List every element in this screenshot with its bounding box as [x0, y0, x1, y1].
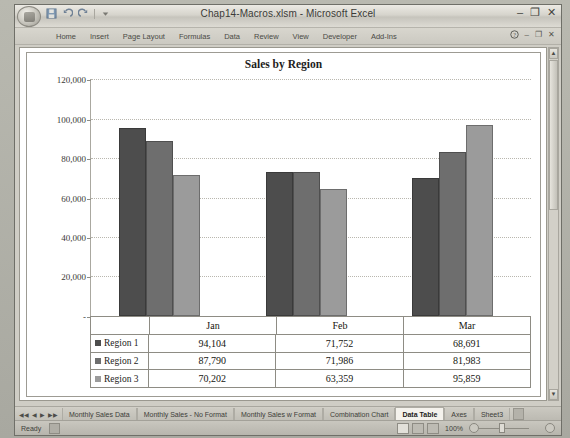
bar-region1-mar[interactable]: [412, 178, 439, 316]
sheet-tab-bar: ◀◀ ◀ ▶ ▶▶ Monthly Sales Data Monthly Sal…: [15, 406, 561, 421]
ribbon-tab-view[interactable]: View: [286, 30, 316, 43]
record-macro-icon[interactable]: [49, 423, 60, 434]
legend-label-region2: Region 2: [104, 356, 139, 366]
data-cell-region3-feb: 63,359: [276, 370, 403, 387]
ytick-label-0: -: [83, 312, 86, 322]
window-controls: – ❐ ✕: [517, 7, 556, 18]
bar-group-mar: [384, 79, 531, 316]
bar-region2-mar[interactable]: [439, 152, 466, 316]
help-icon[interactable]: ?: [510, 30, 519, 39]
ribbon-tab-review[interactable]: Review: [247, 30, 286, 43]
data-table-row-region3: Region 3 70,202 63,359 95,859: [91, 370, 530, 387]
data-cell-region2-jan: 87,790: [149, 353, 276, 370]
next-sheet-icon[interactable]: ▶: [40, 411, 45, 418]
legend-label-region3: Region 3: [104, 374, 139, 384]
bar-group-feb: [238, 79, 385, 316]
restore-button[interactable]: ❐: [530, 7, 540, 18]
previous-sheet-icon[interactable]: ◀: [32, 411, 37, 418]
bar-region3-feb[interactable]: [320, 189, 347, 316]
data-table-row-region2: Region 2 87,790 71,986 81,983: [91, 353, 530, 371]
data-cell-region2-mar: 81,983: [404, 353, 530, 370]
svg-text:?: ?: [513, 32, 516, 38]
bar-region3-jan[interactable]: [173, 175, 200, 316]
bar-region2-jan[interactable]: [146, 141, 173, 316]
page-layout-view-icon[interactable]: [412, 423, 424, 434]
data-table-header-jan: Jan: [150, 317, 277, 334]
sheet-tab-data-table[interactable]: Data Table: [395, 407, 444, 421]
legend-swatch-region3-icon: [95, 376, 101, 382]
chart-data-table[interactable]: Jan Feb Mar Region 1 94,104 71,752 68,69: [90, 316, 531, 388]
data-cell-region2-feb: 71,986: [276, 353, 403, 370]
first-sheet-icon[interactable]: ◀◀: [19, 411, 29, 418]
minimize-ribbon-icon[interactable]: –: [525, 30, 529, 39]
data-table-row-region1: Region 1 94,104 71,752 68,691: [91, 335, 530, 353]
chart-bar-groups: [91, 79, 531, 316]
bar-group-jan: [91, 79, 238, 316]
sheet-nav-buttons: ◀◀ ◀ ▶ ▶▶: [15, 411, 62, 418]
bar-region1-feb[interactable]: [266, 172, 293, 316]
data-table-rowheader-region1: Region 1: [91, 335, 149, 352]
window-title: Chap14-Macros.xlsm - Microsoft Excel: [15, 8, 561, 19]
page-break-view-icon[interactable]: [427, 423, 439, 434]
zoom-knob[interactable]: [499, 423, 505, 433]
desktop-background: Chap14-Macros.xlsm - Microsoft Excel – ❐…: [0, 0, 570, 438]
bar-region1-jan[interactable]: [119, 128, 146, 316]
ribbon-tab-developer[interactable]: Developer: [316, 30, 364, 43]
close-workbook-icon[interactable]: ✕: [548, 30, 555, 39]
worksheet-canvas[interactable]: Sales by Region 120,000 100,000: [19, 47, 547, 401]
zoom-slider[interactable]: [469, 424, 539, 433]
view-buttons: [397, 423, 439, 434]
excel-window: Chap14-Macros.xlsm - Microsoft Excel – ❐…: [14, 4, 562, 436]
ytick-label-100000: 100,000: [57, 115, 86, 125]
ytick-label-120000: 120,000: [57, 75, 86, 85]
close-button[interactable]: ✕: [547, 7, 556, 18]
zoom-out-icon[interactable]: [469, 423, 479, 433]
legend-swatch-region2-icon: [95, 358, 101, 364]
data-table-rowheader-region3: Region 3: [91, 370, 149, 387]
normal-view-icon[interactable]: [397, 423, 409, 434]
sheet-tab-axes[interactable]: Axes: [444, 408, 474, 421]
sheet-tab-sheet3[interactable]: Sheet3: [474, 408, 510, 421]
data-cell-region1-feb: 71,752: [276, 335, 403, 352]
bar-region2-feb[interactable]: [293, 172, 320, 316]
ribbon-tab-formulas[interactable]: Formulas: [172, 30, 217, 43]
status-bar: Ready 100%: [15, 420, 561, 435]
sheet-tab-combination-chart[interactable]: Combination Chart: [323, 408, 395, 421]
data-table-header-feb: Feb: [277, 317, 404, 334]
legend-swatch-region1-icon: [95, 340, 101, 346]
ytick-label-60000: 60,000: [61, 194, 86, 204]
legend-label-region1: Region 1: [104, 338, 139, 348]
sheet-tab-monthly-sales-no-format[interactable]: Monthly Sales - No Format: [137, 408, 234, 421]
tab-split-handle[interactable]: [513, 408, 524, 420]
ribbon-tab-home[interactable]: Home: [49, 30, 83, 43]
status-text: Ready: [15, 425, 41, 432]
last-sheet-icon[interactable]: ▶▶: [48, 411, 58, 418]
zoom-in-icon[interactable]: [545, 423, 555, 433]
chart-object[interactable]: Sales by Region 120,000 100,000: [26, 52, 541, 397]
data-cell-region3-jan: 70,202: [149, 370, 276, 387]
worksheet-vertical-scrollbar[interactable]: ▲ ▼: [548, 47, 559, 401]
ribbon-tab-data[interactable]: Data: [217, 30, 247, 43]
ribbon-right-controls: ? – ❐ ✕: [510, 30, 555, 39]
scroll-up-arrow-icon[interactable]: ▲: [549, 48, 558, 59]
restore-workbook-icon[interactable]: ❐: [535, 30, 542, 39]
chart-title: Sales by Region: [27, 58, 540, 70]
data-table-header-row: Jan Feb Mar: [91, 317, 530, 335]
ribbon-tab-add-ins[interactable]: Add-Ins: [364, 30, 404, 43]
zoom-level-label: 100%: [445, 425, 463, 432]
bar-region3-mar[interactable]: [466, 125, 493, 316]
chart-plot-area: 120,000 100,000 80,000 60,000: [90, 79, 531, 316]
sheet-tab-monthly-sales-w-format[interactable]: Monthly Sales w Format: [234, 408, 323, 421]
ribbon-tab-page-layout[interactable]: Page Layout: [116, 30, 172, 43]
scrollbar-thumb[interactable]: [549, 60, 558, 210]
ytick-label-40000: 40,000: [61, 233, 86, 243]
scroll-down-arrow-icon[interactable]: ▼: [549, 389, 558, 400]
minimize-button[interactable]: –: [517, 7, 523, 18]
ytick-label-80000: 80,000: [61, 154, 86, 164]
data-cell-region1-mar: 68,691: [404, 335, 530, 352]
data-cell-region1-jan: 94,104: [149, 335, 276, 352]
ribbon-tab-insert[interactable]: Insert: [83, 30, 116, 43]
horizontal-scrollbar[interactable]: [524, 407, 561, 421]
ribbon-tab-strip: Home Insert Page Layout Formulas Data Re…: [15, 28, 561, 45]
sheet-tab-monthly-sales-data[interactable]: Monthly Sales Data: [62, 408, 137, 421]
